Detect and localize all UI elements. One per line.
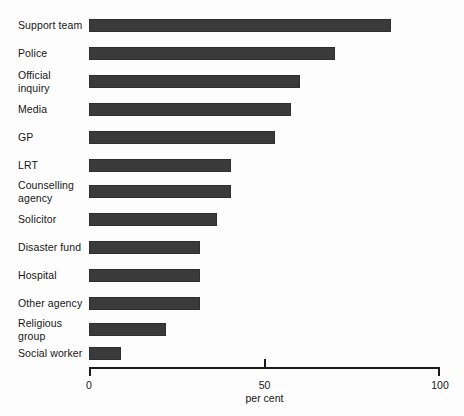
plot-area: Support team Police Official inquiry Med… (0, 0, 464, 416)
bar-track (89, 131, 275, 144)
bar-fill (89, 241, 200, 254)
bar-track (89, 75, 300, 88)
bar-fill (89, 75, 300, 88)
bar-fill (89, 159, 231, 172)
bar-track (89, 347, 121, 360)
category-label: Religious group (18, 316, 84, 343)
bar-fill (89, 213, 217, 226)
category-label: Support team (18, 12, 84, 39)
bar-row: Solicitor (0, 206, 464, 233)
category-label: Social worker (18, 340, 84, 367)
bar-track (89, 323, 166, 336)
bar-track (89, 159, 231, 172)
category-label: Media (18, 96, 84, 123)
bar-row: Police (0, 40, 464, 67)
category-label: Disaster fund (18, 234, 84, 261)
x-tick-label-0: 0 (69, 379, 109, 391)
bar-chart: Support team Police Official inquiry Med… (0, 0, 464, 416)
bar-row: Religious group (0, 316, 464, 343)
bar-track (89, 47, 335, 60)
category-label: LRT (18, 152, 84, 179)
category-label: Police (18, 40, 84, 67)
bar-fill (89, 347, 121, 360)
bar-row: Other agency (0, 290, 464, 317)
bar-track (89, 241, 200, 254)
bar-row: Disaster fund (0, 234, 464, 261)
bar-fill (89, 19, 391, 32)
axis-cap-right (438, 367, 440, 376)
bar-row: Hospital (0, 262, 464, 289)
bar-fill (89, 323, 166, 336)
bar-track (89, 297, 200, 310)
bar-track (89, 213, 217, 226)
category-label: Solicitor (18, 206, 84, 233)
bar-row: Media (0, 96, 464, 123)
axis-tick-50 (264, 359, 266, 368)
bar-row: Social worker (0, 340, 464, 367)
bar-fill (89, 297, 200, 310)
bar-row: LRT (0, 152, 464, 179)
bar-fill (89, 185, 231, 198)
bar-row: Counselling agency (0, 178, 464, 205)
x-axis-title: per cent (89, 392, 440, 404)
category-label: GP (18, 124, 84, 151)
bar-row: GP (0, 124, 464, 151)
axis-cap-left (89, 367, 91, 376)
x-tick-label-100: 100 (420, 379, 460, 391)
category-label: Official inquiry (18, 68, 84, 95)
bar-fill (89, 103, 291, 116)
category-label: Counselling agency (18, 178, 84, 205)
bar-fill (89, 47, 335, 60)
x-axis-line (89, 367, 440, 369)
bar-track (89, 103, 291, 116)
x-tick-label-50: 50 (245, 379, 285, 391)
category-label: Other agency (18, 290, 84, 317)
category-label: Hospital (18, 262, 84, 289)
bar-row: Support team (0, 12, 464, 39)
bar-track (89, 185, 231, 198)
bar-fill (89, 131, 275, 144)
bar-fill (89, 269, 200, 282)
bar-track (89, 269, 200, 282)
bar-row: Official inquiry (0, 68, 464, 95)
bar-track (89, 19, 391, 32)
